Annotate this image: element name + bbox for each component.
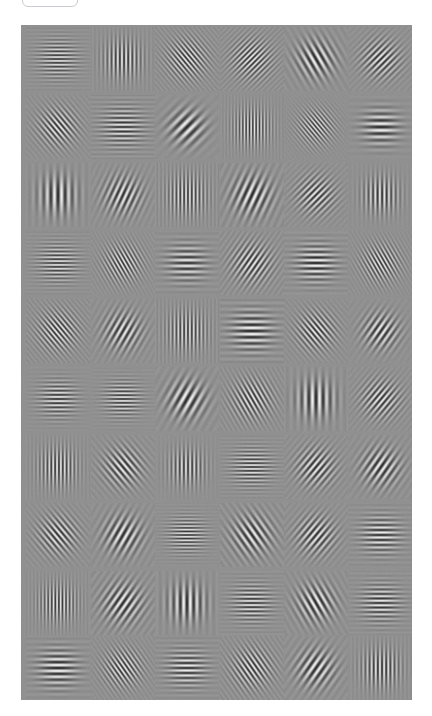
- gabor-patch: [220, 503, 284, 567]
- gabor-patch: [26, 95, 90, 159]
- gabor-patch: [220, 299, 284, 363]
- gabor-patch: [284, 435, 348, 499]
- gabor-patch: [91, 435, 155, 499]
- gabor-patch: [26, 299, 90, 363]
- gabor-patch: [284, 636, 348, 700]
- gabor-patch: [91, 163, 155, 227]
- gabor-patch: [284, 503, 348, 567]
- gabor-patch: [349, 367, 412, 431]
- gabor-patch: [26, 27, 90, 91]
- gabor-patch: [220, 95, 284, 159]
- gabor-patch: [26, 571, 90, 635]
- gabor-patch: [155, 163, 219, 227]
- gabor-patch: [220, 163, 284, 227]
- gabor-patch: [91, 95, 155, 159]
- gabor-patch: [91, 231, 155, 295]
- gabor-patch: [284, 367, 348, 431]
- gabor-patch: [26, 163, 90, 227]
- rounded-button-clipped[interactable]: [22, 0, 78, 7]
- gabor-patch: [284, 95, 348, 159]
- gabor-patch: [220, 231, 284, 295]
- gabor-patch: [91, 636, 155, 700]
- gabor-patch: [284, 231, 348, 295]
- gabor-patch: [26, 367, 90, 431]
- gabor-patch: [349, 571, 412, 635]
- gabor-patch: [155, 367, 219, 431]
- gabor-patch: [26, 503, 90, 567]
- gabor-patch: [26, 636, 90, 700]
- gabor-patch: [91, 503, 155, 567]
- gabor-patch: [349, 299, 412, 363]
- page-root: [0, 0, 432, 716]
- gabor-patch: [91, 367, 155, 431]
- gabor-patch: [91, 27, 155, 91]
- gabor-patch: [220, 367, 284, 431]
- gabor-patch: [220, 27, 284, 91]
- gabor-patch: [349, 163, 412, 227]
- gabor-patch: [155, 27, 219, 91]
- gabor-patch: [284, 571, 348, 635]
- gabor-patch: [155, 435, 219, 499]
- gabor-patch: [284, 299, 348, 363]
- gabor-patch: [155, 299, 219, 363]
- gabor-patch: [284, 163, 348, 227]
- gabor-patch: [91, 299, 155, 363]
- gabor-patch: [155, 95, 219, 159]
- gabor-patch: [349, 435, 412, 499]
- gabor-patch: [349, 95, 412, 159]
- gabor-patch: [220, 636, 284, 700]
- gabor-patch: [349, 636, 412, 700]
- gabor-patch: [284, 27, 348, 91]
- gabor-patch: [349, 231, 412, 295]
- gabor-stimulus-canvas: [21, 25, 412, 700]
- gabor-patch: [349, 27, 412, 91]
- gabor-patch: [91, 571, 155, 635]
- gabor-patch: [26, 231, 90, 295]
- gabor-patch: [349, 503, 412, 567]
- gabor-patch: [155, 571, 219, 635]
- gabor-patch: [155, 231, 219, 295]
- gabor-patch: [155, 503, 219, 567]
- gabor-patch: [26, 435, 90, 499]
- gabor-patch: [220, 435, 284, 499]
- gabor-patch: [155, 636, 219, 700]
- gabor-patch: [220, 571, 284, 635]
